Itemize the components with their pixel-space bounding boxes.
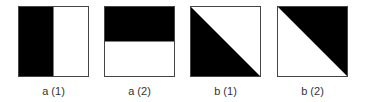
horizontal-split-pattern-icon bbox=[105, 7, 174, 76]
panel-a1-vertical-split bbox=[18, 6, 89, 77]
diagonal-upper-right-pattern-icon bbox=[278, 7, 347, 76]
vertical-split-pattern-icon bbox=[19, 7, 88, 76]
panel-label-b2: b (2) bbox=[277, 84, 348, 98]
diagonal-lower-left-pattern-icon bbox=[191, 7, 260, 76]
panel-b1-diagonal-lower-left bbox=[190, 6, 261, 77]
panel-b2-diagonal-upper-right bbox=[277, 6, 348, 77]
panel-label-b1: b (1) bbox=[190, 84, 261, 98]
panel-a2-horizontal-split bbox=[104, 6, 175, 77]
panel-label-a1: a (1) bbox=[18, 84, 89, 98]
panel-label-a2: a (2) bbox=[104, 84, 175, 98]
